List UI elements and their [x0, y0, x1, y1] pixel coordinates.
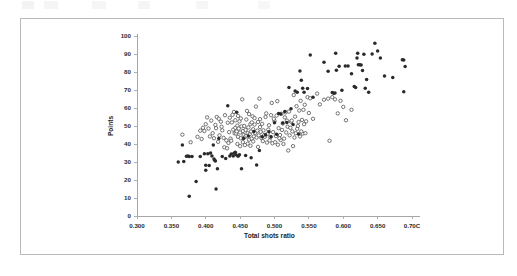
data-point	[234, 119, 237, 122]
data-point	[226, 121, 229, 124]
data-point	[287, 110, 290, 113]
data-point	[271, 130, 274, 133]
data-point	[181, 143, 185, 147]
data-point	[281, 121, 285, 125]
data-point	[280, 128, 283, 131]
data-point	[311, 95, 315, 99]
data-point	[272, 117, 275, 120]
data-point	[240, 167, 244, 171]
data-point	[258, 117, 261, 120]
data-point	[283, 116, 286, 119]
data-point	[328, 139, 331, 142]
data-point	[278, 137, 281, 140]
data-point	[290, 119, 293, 122]
data-point	[292, 93, 295, 96]
data-point	[322, 61, 326, 65]
data-point	[342, 105, 345, 108]
data-point	[254, 105, 257, 108]
data-point	[262, 129, 265, 132]
y-tick-label: 50	[124, 122, 131, 129]
data-point	[251, 140, 254, 143]
data-point	[306, 87, 310, 91]
y-tick-label: 80	[124, 68, 131, 75]
data-point	[238, 144, 241, 147]
data-point	[247, 112, 250, 115]
data-point	[354, 86, 358, 90]
data-point	[247, 126, 250, 129]
data-point	[190, 155, 194, 159]
data-point	[221, 129, 224, 132]
data-point	[208, 135, 211, 138]
data-point	[289, 107, 293, 111]
data-point	[194, 180, 198, 184]
data-point	[285, 121, 289, 125]
data-point	[239, 117, 242, 120]
data-point	[256, 129, 259, 132]
y-tick-label: 90	[124, 50, 131, 57]
data-point	[242, 137, 246, 141]
data-point	[291, 123, 295, 127]
data-point	[264, 133, 268, 137]
y-tick-label: 60	[124, 104, 131, 111]
data-point	[301, 86, 305, 90]
data-point	[269, 135, 273, 139]
data-point	[230, 121, 233, 124]
data-point	[273, 121, 277, 125]
y-tick-label: 100	[121, 32, 132, 39]
data-point	[200, 137, 203, 140]
data-point	[278, 133, 281, 136]
data-point	[250, 121, 253, 124]
data-point	[344, 119, 347, 122]
x-tick-label: 0.350	[164, 222, 180, 229]
data-point	[326, 70, 330, 74]
data-point	[245, 118, 248, 121]
data-point	[340, 89, 344, 93]
data-point	[218, 134, 221, 137]
data-point	[391, 76, 395, 80]
data-point	[204, 123, 207, 126]
data-point	[339, 99, 342, 102]
data-point	[367, 90, 371, 94]
data-point	[282, 142, 285, 145]
data-point	[260, 135, 264, 139]
data-point	[220, 125, 223, 128]
data-point	[315, 92, 318, 95]
data-point	[216, 167, 220, 171]
x-tick-label: 0.600	[336, 222, 352, 229]
data-point	[243, 124, 246, 127]
data-point	[298, 69, 302, 73]
data-point	[265, 112, 268, 115]
data-point	[276, 99, 279, 102]
data-point	[383, 74, 387, 78]
data-point	[287, 86, 291, 90]
data-point	[284, 131, 287, 134]
data-point	[403, 65, 407, 69]
x-tick-label: 0.70C	[404, 222, 421, 229]
data-point	[258, 125, 261, 128]
data-point	[287, 149, 290, 152]
data-point	[253, 116, 256, 119]
data-point	[199, 155, 203, 159]
data-point	[291, 130, 294, 133]
data-point	[249, 144, 252, 147]
data-point	[238, 153, 242, 157]
data-point	[356, 52, 360, 56]
data-point	[204, 169, 208, 173]
data-point	[311, 117, 314, 120]
data-point	[212, 143, 216, 147]
data-point	[379, 56, 383, 60]
data-point	[297, 120, 300, 123]
data-point	[362, 53, 366, 57]
data-point	[295, 127, 298, 130]
data-point	[211, 132, 214, 135]
data-point	[221, 155, 225, 159]
data-point	[282, 137, 285, 140]
data-point	[267, 130, 271, 134]
data-point	[300, 130, 303, 133]
data-point	[216, 140, 219, 143]
data-point	[255, 163, 259, 167]
data-point	[249, 156, 253, 160]
data-point	[231, 113, 234, 116]
data-point	[240, 98, 243, 101]
data-point	[214, 123, 217, 126]
